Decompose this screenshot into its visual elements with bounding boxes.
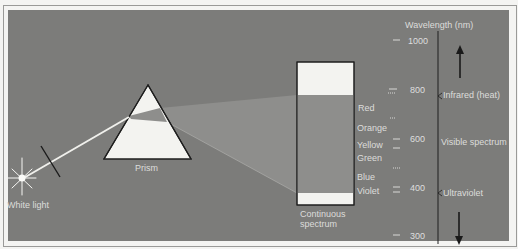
white-light-label: White light	[7, 200, 49, 210]
scale-dashes	[388, 40, 400, 235]
tick-1000: 1000	[408, 36, 428, 46]
infrared-region-label: Infrared (heat)	[443, 90, 500, 100]
tick-300: 300	[410, 231, 425, 241]
color-label-red: Red	[358, 103, 375, 113]
continuous-spectrum-box	[297, 62, 354, 205]
arrow-down-icon	[455, 212, 463, 245]
prism-label: Prism	[135, 163, 158, 173]
color-label-yellow: Yellow	[357, 140, 383, 150]
continuous-spectrum-label-line2: spectrum	[300, 219, 337, 229]
ultraviolet-region-label: Ultraviolet	[443, 188, 483, 198]
tick-400: 400	[410, 183, 425, 193]
wavelength-axis-title: Wavelength (nm)	[405, 20, 473, 30]
continuous-spectrum-label-line1: Continuous	[300, 209, 346, 219]
prism-diagram-art	[0, 0, 518, 249]
color-label-orange: Orange	[357, 123, 387, 133]
slit-mark-icon	[41, 146, 60, 177]
color-label-blue: Blue	[357, 172, 375, 182]
tick-800: 800	[410, 85, 425, 95]
tick-600: 600	[410, 134, 425, 144]
arrow-up-icon	[456, 45, 464, 78]
color-label-violet: Violet	[357, 186, 379, 196]
light-source-star-icon	[8, 158, 36, 195]
visible-spectrum-label: Visible spectrum	[441, 137, 507, 147]
color-label-green: Green	[357, 153, 382, 163]
